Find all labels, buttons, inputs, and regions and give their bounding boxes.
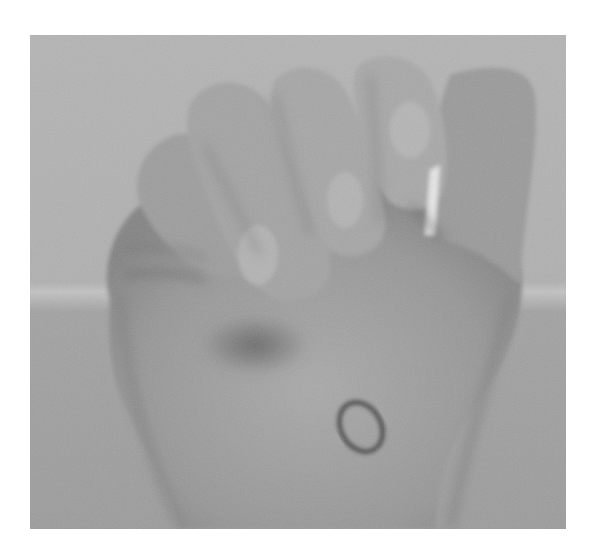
hand-illustration: [30, 35, 566, 529]
film-grain: [30, 35, 566, 529]
hand-photo: Hand in a closed fist with an oval mark …: [30, 35, 566, 529]
